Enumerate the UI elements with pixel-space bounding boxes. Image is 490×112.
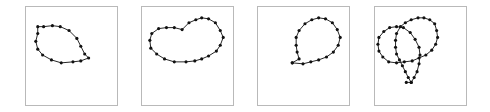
curve-point <box>187 21 190 24</box>
curve-point <box>42 25 45 28</box>
curve-point <box>377 50 380 53</box>
curve-point <box>150 32 153 35</box>
curve-point <box>428 18 431 21</box>
curve-point <box>405 81 408 84</box>
curve-point <box>402 26 405 29</box>
curve-point <box>332 51 335 54</box>
panel-teardrop <box>25 6 118 106</box>
curve-point <box>395 25 398 28</box>
curve-point <box>34 40 37 43</box>
curve-point <box>413 76 416 79</box>
curve-point <box>398 58 401 61</box>
curve-point <box>388 26 391 29</box>
curve-point <box>433 22 436 25</box>
curve-point <box>394 39 397 42</box>
curve-point <box>295 36 298 39</box>
curve-point <box>298 57 301 60</box>
curve-point <box>336 28 339 31</box>
curve-point <box>310 18 313 21</box>
curve-point <box>417 62 420 65</box>
curve-point <box>381 55 384 58</box>
curve-point <box>207 54 210 57</box>
curve-point <box>75 37 78 40</box>
curve-point <box>407 76 410 79</box>
curve-point <box>60 61 63 64</box>
curve-point <box>83 52 86 55</box>
curve-point <box>331 21 334 24</box>
curve-point <box>165 26 168 29</box>
curve-point <box>317 58 320 61</box>
curve-path <box>292 18 340 64</box>
curve-point <box>435 29 438 32</box>
curve-point <box>395 32 398 35</box>
curve-point <box>219 29 222 32</box>
curve-point <box>395 61 398 64</box>
curve-point <box>79 59 82 62</box>
curve-point <box>36 48 39 51</box>
curve-point <box>295 44 298 47</box>
curve-point <box>414 38 417 41</box>
curve-point <box>149 47 152 50</box>
curve-point <box>411 59 414 62</box>
curve-point <box>309 60 312 63</box>
curve-point <box>377 36 380 39</box>
curve-point <box>417 56 420 59</box>
curve-double-loop-knot <box>375 7 466 105</box>
curve-point <box>291 61 294 64</box>
curve-point <box>173 60 176 63</box>
curve-point <box>207 17 210 20</box>
curve-point <box>399 25 402 28</box>
curve-point <box>87 56 90 59</box>
panel-loop-with-tail <box>257 6 350 106</box>
curve-point <box>173 26 176 29</box>
panel-double-loop-knot <box>374 6 467 106</box>
curve-point <box>376 43 379 46</box>
curve-point <box>387 60 390 63</box>
panel-kidney <box>141 6 234 106</box>
curve-point <box>59 25 62 28</box>
curve-point <box>36 25 39 28</box>
curve-point <box>67 29 70 32</box>
curve-teardrop <box>26 7 117 105</box>
curve-point <box>436 36 439 39</box>
curve-point <box>222 36 225 39</box>
curve-point <box>193 59 196 62</box>
curve-point <box>41 53 44 56</box>
curve-point <box>404 70 407 73</box>
curve-point <box>339 36 342 39</box>
curve-point <box>181 28 184 31</box>
curve-point <box>324 17 327 20</box>
curve-point <box>410 81 413 84</box>
curve-point <box>50 58 53 61</box>
curve-point <box>163 57 166 60</box>
curve-path <box>150 18 223 62</box>
curve-point <box>416 70 419 73</box>
curve-loop-with-tail <box>258 7 349 105</box>
curve-path <box>36 26 89 63</box>
curve-point <box>303 22 306 25</box>
curve-point <box>200 57 203 60</box>
curve-point <box>418 53 421 56</box>
curve-point <box>417 46 420 49</box>
curve-point <box>36 32 39 35</box>
curve-point <box>404 21 407 24</box>
curve-point <box>337 44 340 47</box>
curve-point <box>71 60 74 63</box>
curve-point <box>184 60 187 63</box>
curve-point <box>403 60 406 63</box>
curve-point <box>215 50 218 53</box>
curve-point <box>401 64 404 67</box>
curve-point <box>157 27 160 30</box>
curve-point <box>409 31 412 34</box>
curve-point <box>296 51 299 54</box>
curve-point <box>317 16 320 19</box>
curve-point <box>301 62 304 65</box>
curve-point <box>325 55 328 58</box>
curve-point <box>395 52 398 55</box>
curve-point <box>416 16 419 19</box>
curve-point <box>422 16 425 19</box>
curve-point <box>434 43 437 46</box>
curve-point <box>298 29 301 32</box>
curve-point <box>148 39 151 42</box>
curve-point <box>155 52 158 55</box>
